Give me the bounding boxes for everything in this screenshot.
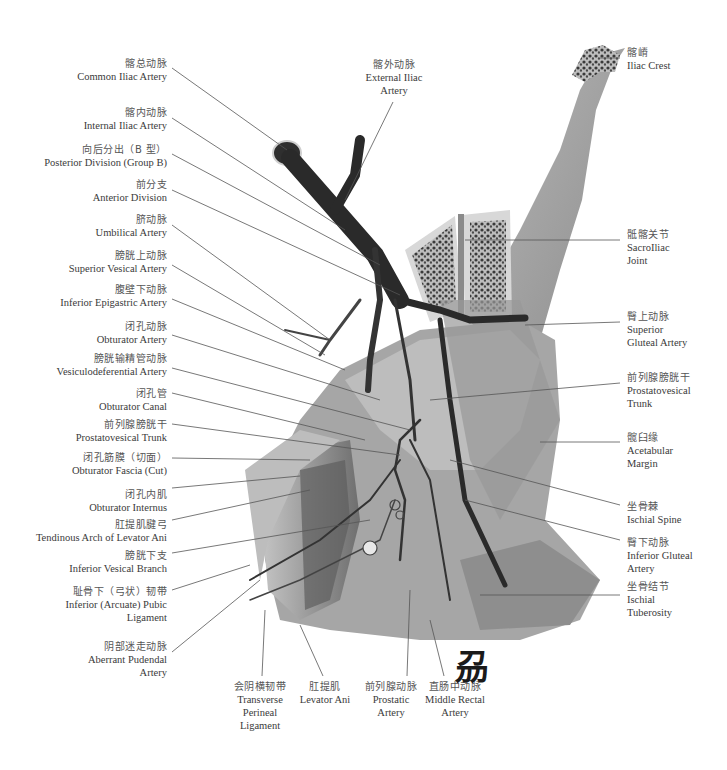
- label-obturator-artery: 闭孔动脉Obturator Artery: [97, 320, 167, 346]
- label-sacroiliac-joint: 骶髂关节SacroIliacJoint: [627, 228, 670, 267]
- label-superior-gluteal-artery: 臀上动脉SuperiorGluteal Artery: [627, 310, 687, 349]
- label-prostatovesical-trunk-right: 前列腺膀胱干ProstatovesicalTrunk: [627, 371, 691, 410]
- label-obturator-internus: 闭孔内肌Obturator Internus: [89, 488, 167, 514]
- label-ischial-spine: 坐骨棘Ischial Spine: [627, 500, 682, 526]
- label-superior-vesical-artery: 膀胱上动脉Superior Vesical Artery: [69, 249, 167, 275]
- label-common-iliac-artery: 髂总动脉Common Iliac Artery: [77, 57, 167, 83]
- label-aberrant-pudendal-artery: 阴部迷走动脉Aberrant PudendalArtery: [88, 640, 167, 679]
- label-levator-ani: 肛提肌Levator Ani: [295, 680, 355, 706]
- label-umbilical-artery: 脐动脉Umbilical Artery: [96, 213, 167, 239]
- label-tendinous-arch: 肛提肌腱弓Tendinous Arch of Levator Ani: [36, 518, 167, 544]
- label-obturator-canal: 闭孔管Obturator Canal: [99, 387, 167, 413]
- label-inferior-pubic-ligament: 耻骨下（弓状）韧带Inferior (Arcuate) PubicLigamen…: [66, 585, 167, 624]
- artist-logo: 刕: [455, 650, 489, 684]
- anatomical-illustration: 髂总动脉Common Iliac Artery 髂内动脉Internal Ili…: [0, 0, 727, 770]
- label-ischial-tuberosity: 坐骨结节IschialTuberosity: [627, 580, 672, 619]
- label-prostatic-artery: 前列腺动脉ProstaticArtery: [358, 680, 424, 719]
- label-transverse-perineal-ligament: 会阴横韧带TransversePerinealLigament: [222, 680, 298, 732]
- label-acetabular-margin: 髋臼缘AcetabularMargin: [627, 431, 673, 470]
- label-posterior-division: 向后分出（B 型）Posterior Division (Group B): [44, 143, 167, 169]
- label-inferior-gluteal-artery: 臀下动脉Inferior GlutealArtery: [627, 536, 693, 575]
- label-anterior-division: 前分支Anterior Division: [93, 178, 167, 204]
- label-external-iliac-artery: 髂外动脉External IliacArtery: [350, 58, 438, 97]
- label-inferior-vesical-branch: 膀胱下支Inferior Vesical Branch: [69, 549, 167, 575]
- label-internal-iliac-artery: 髂内动脉Internal Iliac Artery: [84, 106, 167, 132]
- label-iliac-crest: 髂嵴Iliac Crest: [627, 46, 670, 72]
- label-vesiculodeferential-artery: 膀胱输精管动脉Vesiculodeferential Artery: [57, 352, 168, 378]
- label-prostatovesical-trunk-left: 前列腺膀胱干Prostatovesical Trunk: [76, 418, 167, 444]
- label-inferior-epigastric-artery: 腹壁下动脉Inferior Epigastric Artery: [60, 283, 167, 309]
- label-obturator-fascia: 闭孔筋膜（切面）Obturator Fascia (Cut): [72, 451, 167, 477]
